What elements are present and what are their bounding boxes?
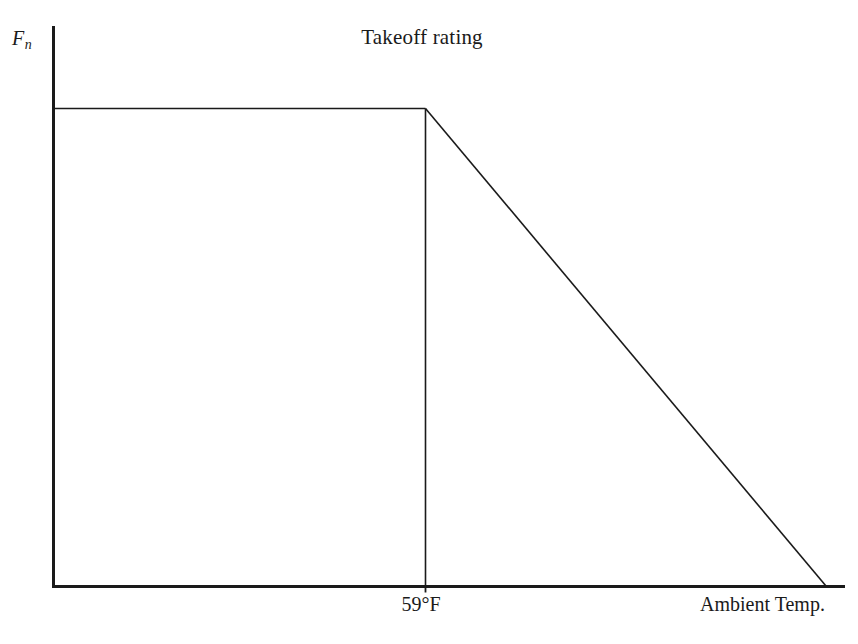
x-axis-label: Ambient Temp. [670, 592, 855, 616]
chart-title: Takeoff rating [272, 24, 572, 50]
x-axis-tick-label-59f: 59°F [361, 592, 481, 616]
y-axis-label-subscript: n [25, 37, 32, 52]
declining-segment [426, 109, 827, 587]
chart-plot-area [0, 0, 858, 644]
y-axis-label-symbol: F [12, 27, 24, 49]
takeoff-rating-figure: Takeoff rating Fn 59°F Ambient Temp. [0, 0, 858, 644]
y-axis-label: Fn [12, 26, 31, 53]
